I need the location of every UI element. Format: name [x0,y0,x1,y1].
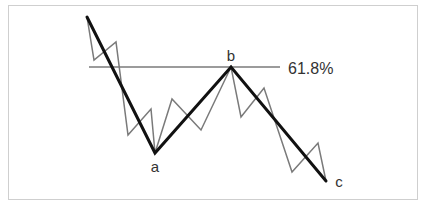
elliott-abc-correction-diagram: a b c 61.8% [0,0,426,211]
point-a-label: a [151,158,160,175]
point-b-label: b [227,47,235,64]
retracement-percent-label: 61.8% [288,60,333,77]
sub-wave-zigzag-line [87,17,326,181]
point-c-label: c [335,173,343,190]
